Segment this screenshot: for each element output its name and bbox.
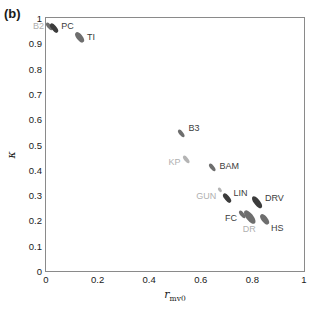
data-point [223,194,231,202]
y-axis-tick-label: 0.4 [29,164,42,175]
data-point-label: TI [87,32,95,42]
data-point-label: FC [225,213,237,223]
y-axis-tick-label: 0 [37,266,42,277]
data-point-marker [237,210,246,220]
data-point-label: BAM [219,161,239,171]
y-axis-tick-label: 0.1 [29,240,42,251]
x-axis-tick-label: 0 [43,274,48,285]
x-axis-tick-label: 0.6 [194,274,207,285]
data-point-label: KP [169,157,181,167]
data-point-marker [73,31,85,44]
y-axis-tick-label: 0.7 [29,88,42,99]
data-point [244,211,256,223]
data-point-marker [221,192,232,204]
data-point [50,24,58,32]
y-axis-tick-label: 0.6 [29,114,42,125]
x-axis-label: rmv0 [45,288,305,303]
x-axis-tick-label: 0.8 [246,274,259,285]
data-point-marker [258,213,270,226]
data-point [75,33,84,42]
data-point [183,156,190,163]
data-point-marker [49,22,60,34]
data-point-label: GUN [196,191,216,201]
data-point [252,197,262,207]
y-axis-tick-label: 0.2 [29,215,42,226]
panel-label: (b) [4,6,21,21]
data-point-label: B3 [188,123,199,133]
data-point [46,23,53,30]
y-axis-tick-label: 0.3 [29,190,42,201]
plot-area: 00.10.20.30.40.50.60.70.80.9100.20.40.60… [45,17,305,272]
y-axis-tick-label: 0.9 [29,38,42,49]
data-point-marker [250,195,263,209]
y-axis-label: κ [5,151,18,158]
data-point-label: PC [61,21,74,31]
figure-panel-b: (b) 00.10.20.30.40.50.60.70.80.9100.20.4… [0,0,319,309]
data-point-label: DRV [265,193,284,203]
data-point-label: HS [271,223,284,233]
data-point [218,188,222,192]
y-axis-tick-label: 0.5 [29,139,42,150]
y-axis-tick-label: 0.8 [29,63,42,74]
data-point-label: LIN [234,188,248,198]
data-point [178,130,185,137]
x-axis-tick-label: 0.2 [91,274,104,285]
data-point [239,211,246,218]
data-point-marker [45,22,54,32]
x-axis-label-subscript: mv0 [170,294,186,303]
data-point-marker [182,154,191,164]
data-point-marker [177,128,186,138]
data-point [260,215,269,224]
data-point-marker [208,162,217,172]
x-axis-tick-label: 0.4 [143,274,156,285]
data-point-marker [217,187,223,193]
data-point-label: DR [243,224,256,234]
data-point [209,164,216,171]
data-point-label: B2 [33,21,44,31]
x-axis-tick-label: 1 [301,274,306,285]
